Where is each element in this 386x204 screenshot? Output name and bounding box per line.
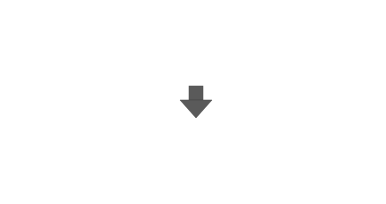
figure-canvas <box>0 0 386 204</box>
down-arrow-icon <box>180 86 212 118</box>
